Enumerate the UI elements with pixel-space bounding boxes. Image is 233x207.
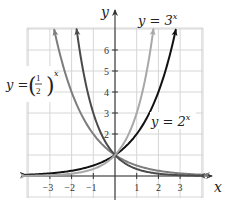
y-tick-label: 6 bbox=[104, 45, 109, 56]
x-tick-label: −1 bbox=[86, 182, 97, 193]
x-tick-label: −2 bbox=[64, 182, 75, 193]
y-tick-label: 4 bbox=[104, 87, 109, 98]
svg-text:2: 2 bbox=[36, 86, 41, 96]
svg-text:y =: y = bbox=[5, 77, 28, 92]
curve-half-to-x bbox=[54, 30, 204, 175]
curve-third-to-x bbox=[77, 29, 200, 176]
y-tick-label: 2 bbox=[104, 129, 109, 140]
x-tick-label: 1 bbox=[134, 182, 139, 193]
label-y-equals-2-to-x: y = 2x bbox=[150, 112, 196, 129]
x-axis-label: x bbox=[214, 179, 222, 195]
y-tick-label: 3 bbox=[104, 108, 109, 119]
y-tick-label: 5 bbox=[104, 66, 109, 77]
label-y-equals-3-to-x: y = 3x bbox=[137, 12, 178, 28]
axes bbox=[22, 10, 212, 200]
y-axis-label: y bbox=[100, 4, 110, 20]
curve-2-to-x bbox=[26, 30, 176, 175]
x-tick-label: 2 bbox=[156, 182, 161, 193]
exponential-functions-graph: −3−2−112323456 y x y = 3x y = 2x y = ( )… bbox=[0, 0, 233, 207]
svg-text:y = 2x: y = 2x bbox=[150, 113, 191, 129]
svg-text:x: x bbox=[54, 69, 59, 78]
label-y-equals-half-to-x: y = ( ) 1 2 x bbox=[4, 66, 59, 102]
svg-text:y = 3x: y = 3x bbox=[137, 12, 178, 28]
svg-text:1: 1 bbox=[36, 73, 41, 83]
x-tick-label: 3 bbox=[178, 182, 183, 193]
x-tick-label: −3 bbox=[43, 182, 54, 193]
